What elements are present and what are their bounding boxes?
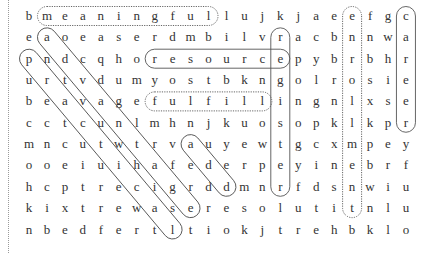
grid-letter[interactable]: m [20,134,38,154]
grid-letter[interactable]: d [200,155,218,175]
grid-letter[interactable]: l [235,91,253,111]
grid-letter[interactable]: t [200,70,218,90]
grid-letter[interactable]: m [128,70,146,90]
grid-letter[interactable]: i [200,220,218,240]
grid-letter[interactable]: t [56,70,74,90]
grid-letter[interactable]: g [271,70,289,90]
grid-letter[interactable]: o [164,70,182,90]
grid-letter[interactable]: d [92,70,110,90]
grid-letter[interactable]: e [379,134,397,154]
grid-letter[interactable]: c [38,177,56,197]
grid-letter[interactable]: u [74,134,92,154]
grid-letter[interactable]: r [271,27,289,47]
grid-letter[interactable]: h [128,155,146,175]
grid-letter[interactable]: i [379,177,397,197]
grid-letter[interactable]: i [110,6,128,26]
grid-letter[interactable]: l [343,113,361,133]
grid-letter[interactable]: k [217,113,235,133]
grid-letter[interactable]: i [379,70,397,90]
grid-letter[interactable]: l [182,91,200,111]
grid-letter[interactable]: l [271,198,289,218]
grid-letter[interactable]: t [307,198,325,218]
grid-letter[interactable]: k [235,70,253,90]
grid-letter[interactable]: c [253,49,271,69]
grid-letter[interactable]: m [38,6,56,26]
grid-letter[interactable]: c [307,134,325,154]
grid-letter[interactable]: e [307,220,325,240]
grid-letter[interactable]: i [110,155,128,175]
grid-letter[interactable]: r [146,27,164,47]
grid-letter[interactable]: q [92,49,110,69]
grid-letter[interactable]: a [38,27,56,47]
grid-letter[interactable]: s [271,113,289,133]
grid-letter[interactable]: t [343,198,361,218]
grid-letter[interactable]: t [74,198,92,218]
grid-letter[interactable]: r [200,198,218,218]
grid-letter[interactable]: j [289,6,307,26]
grid-letter[interactable]: c [56,134,74,154]
grid-letter[interactable]: n [253,177,271,197]
grid-letter[interactable]: d [217,177,235,197]
grid-letter[interactable]: e [182,155,200,175]
grid-letter[interactable]: e [235,134,253,154]
grid-letter[interactable]: n [110,113,128,133]
grid-letter[interactable]: a [307,6,325,26]
grid-letter[interactable]: f [289,177,307,197]
grid-letter[interactable]: i [217,91,235,111]
grid-letter[interactable]: n [253,70,271,90]
grid-letter[interactable]: c [38,113,56,133]
grid-letter[interactable]: s [235,198,253,218]
grid-letter[interactable]: a [289,27,307,47]
grid-letter[interactable]: p [20,49,38,69]
grid-letter[interactable]: e [56,6,74,26]
grid-letter[interactable]: r [38,70,56,90]
grid-letter[interactable]: c [20,113,38,133]
grid-letter[interactable]: t [74,177,92,197]
grid-letter[interactable]: k [361,220,379,240]
grid-letter[interactable]: r [397,49,415,69]
grid-letter[interactable]: k [361,113,379,133]
grid-letter[interactable]: e [325,6,343,26]
grid-letter[interactable]: u [92,155,110,175]
grid-letter[interactable]: l [164,220,182,240]
grid-letter[interactable]: o [217,220,235,240]
grid-letter[interactable]: y [289,155,307,175]
grid-letter[interactable]: r [271,177,289,197]
grid-letter[interactable]: m [146,113,164,133]
grid-letter[interactable]: g [146,6,164,26]
grid-letter[interactable]: u [110,70,128,90]
grid-letter[interactable]: b [361,49,379,69]
grid-letter[interactable]: i [38,198,56,218]
grid-letter[interactable]: i [217,27,235,47]
grid-letter[interactable]: e [38,91,56,111]
grid-letter[interactable]: e [343,6,361,26]
grid-letter[interactable]: e [128,27,146,47]
grid-letter[interactable]: t [271,134,289,154]
grid-letter[interactable]: i [271,91,289,111]
grid-letter[interactable]: e [110,198,128,218]
grid-letter[interactable]: u [397,198,415,218]
grid-letter[interactable]: p [253,155,271,175]
grid-letter[interactable]: e [110,177,128,197]
grid-letter[interactable]: h [164,113,182,133]
grid-letter[interactable]: r [325,70,343,90]
grid-letter[interactable]: e [217,155,235,175]
grid-letter[interactable]: e [397,91,415,111]
grid-letter[interactable]: v [74,70,92,90]
grid-letter[interactable]: r [146,49,164,69]
grid-letter[interactable]: a [146,198,164,218]
grid-letter[interactable]: b [217,70,235,90]
grid-letter[interactable]: b [38,220,56,240]
grid-letter[interactable]: t [92,134,110,154]
grid-letter[interactable]: i [146,177,164,197]
grid-letter[interactable]: h [379,49,397,69]
grid-letter[interactable]: p [56,177,74,197]
grid-letter[interactable]: r [182,177,200,197]
grid-letter[interactable]: c [307,27,325,47]
grid-letter[interactable]: r [397,113,415,133]
grid-letter[interactable]: y [217,134,235,154]
grid-letter[interactable]: n [343,177,361,197]
grid-letter[interactable]: s [110,27,128,47]
grid-letter[interactable]: r [379,155,397,175]
grid-letter[interactable]: y [397,134,415,154]
